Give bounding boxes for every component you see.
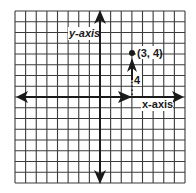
vertical-move-label: 4 — [134, 74, 141, 86]
vertical-move: 4 — [127, 58, 142, 95]
point-3-4: (3, 4) — [129, 46, 163, 59]
x-axis-label: x-axis — [142, 98, 173, 110]
horizontal-move — [102, 91, 132, 103]
coordinate-plane: 4 (3, 4) y-axis x-axis — [0, 0, 196, 193]
point-label: (3, 4) — [137, 47, 163, 59]
y-axis-label: y-axis — [68, 27, 100, 39]
